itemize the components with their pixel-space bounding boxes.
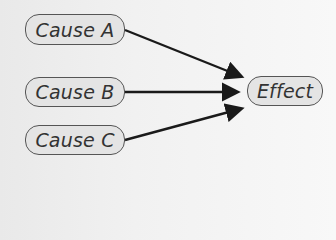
arrow-c-to-effect	[125, 109, 240, 140]
cause-c-label: Cause C	[35, 129, 114, 151]
effect-label: Effect	[257, 80, 313, 102]
cause-b-label: Cause B	[35, 81, 114, 103]
arrow-a-to-effect	[125, 30, 240, 76]
cause-a-node: Cause A	[25, 14, 125, 45]
cause-b-node: Cause B	[25, 77, 125, 107]
effect-node: Effect	[247, 76, 323, 106]
cause-a-label: Cause A	[36, 19, 115, 41]
cause-c-node: Cause C	[25, 125, 125, 155]
